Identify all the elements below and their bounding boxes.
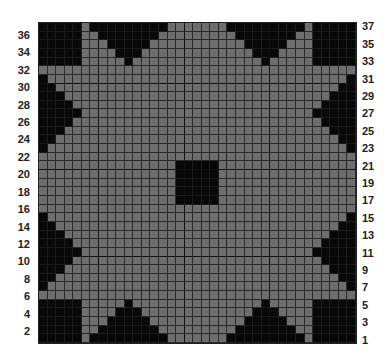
grid-cell <box>82 161 91 170</box>
grid-cell <box>65 58 74 67</box>
row-number-label: 14 <box>6 222 30 233</box>
grid-cell <box>39 326 48 335</box>
row-number-label: 12 <box>6 239 30 250</box>
grid-cell <box>90 161 99 170</box>
grid-cell <box>262 187 271 196</box>
grid-cell <box>176 135 185 144</box>
grid-cell <box>279 109 288 118</box>
grid-cell <box>48 300 57 309</box>
grid-cell <box>142 179 151 188</box>
grid-cell <box>313 153 322 162</box>
grid-cell <box>176 196 185 205</box>
grid-cell <box>168 109 177 118</box>
grid-cell <box>219 205 228 214</box>
grid-cell <box>245 127 254 136</box>
grid-cell <box>90 109 99 118</box>
grid-cell <box>90 118 99 127</box>
grid-cell <box>90 334 99 343</box>
grid-cell <box>176 109 185 118</box>
grid-cell <box>322 231 331 240</box>
grid-cell <box>133 135 142 144</box>
grid-cell <box>322 179 331 188</box>
grid-cell <box>339 326 348 335</box>
grid-cell <box>227 308 236 317</box>
grid-cell <box>330 127 339 136</box>
grid-cell <box>142 109 151 118</box>
grid-cell <box>193 265 202 274</box>
grid-cell <box>347 265 356 274</box>
grid-cell <box>262 308 271 317</box>
grid-cell <box>142 239 151 248</box>
grid-cell <box>347 326 356 335</box>
grid-cell <box>270 222 279 231</box>
grid-cell <box>313 109 322 118</box>
grid-cell <box>202 205 211 214</box>
grid-cell <box>279 248 288 257</box>
grid-cell <box>116 239 125 248</box>
grid-cell <box>227 170 236 179</box>
grid-cell <box>219 300 228 309</box>
grid-cell <box>322 213 331 222</box>
grid-cell <box>330 291 339 300</box>
grid-cell <box>339 109 348 118</box>
grid-cell <box>347 32 356 41</box>
grid-cell <box>56 205 65 214</box>
row-number-label: 21 <box>362 161 374 172</box>
grid-cell <box>39 170 48 179</box>
grid-cell <box>125 239 134 248</box>
grid-cell <box>99 135 108 144</box>
grid-cell <box>142 196 151 205</box>
grid-cell <box>133 308 142 317</box>
grid-cell <box>270 118 279 127</box>
grid-cell <box>159 334 168 343</box>
grid-cell <box>313 144 322 153</box>
grid-cell <box>150 23 159 32</box>
grid-cell <box>90 213 99 222</box>
grid-cell <box>108 40 117 49</box>
grid-cell <box>108 75 117 84</box>
grid-cell <box>322 239 331 248</box>
grid-cell <box>236 161 245 170</box>
grid-cell <box>253 213 262 222</box>
grid-cell <box>279 135 288 144</box>
grid-cell <box>339 32 348 41</box>
grid-cell <box>99 265 108 274</box>
grid-cell <box>193 101 202 110</box>
grid-cell <box>287 222 296 231</box>
grid-cell <box>270 326 279 335</box>
grid-cell <box>202 40 211 49</box>
grid-cell <box>193 179 202 188</box>
grid-cell <box>287 274 296 283</box>
grid-cell <box>125 282 134 291</box>
grid-cell <box>339 40 348 49</box>
grid-cell <box>56 84 65 93</box>
grid-cell <box>39 291 48 300</box>
grid-cell <box>150 308 159 317</box>
row-number-label: 10 <box>6 256 30 267</box>
grid-cell <box>202 66 211 75</box>
grid-cell <box>219 58 228 67</box>
grid-cell <box>210 334 219 343</box>
grid-cell <box>236 326 245 335</box>
grid-cell <box>227 161 236 170</box>
grid-cell <box>227 179 236 188</box>
grid-cell <box>236 40 245 49</box>
grid-cell <box>185 265 194 274</box>
grid-cell <box>296 75 305 84</box>
grid-cell <box>305 274 314 283</box>
grid-cell <box>287 58 296 67</box>
grid-cell <box>82 49 91 58</box>
grid-cell <box>193 127 202 136</box>
row-number-label: 11 <box>362 248 374 259</box>
grid-cell <box>296 196 305 205</box>
grid-cell <box>116 248 125 257</box>
grid-cell <box>253 308 262 317</box>
grid-cell <box>142 84 151 93</box>
grid-cell <box>287 300 296 309</box>
grid-cell <box>219 118 228 127</box>
grid-cell <box>48 282 57 291</box>
grid-cell <box>48 187 57 196</box>
grid-cell <box>90 179 99 188</box>
grid-cell <box>219 49 228 58</box>
grid-cell <box>39 135 48 144</box>
